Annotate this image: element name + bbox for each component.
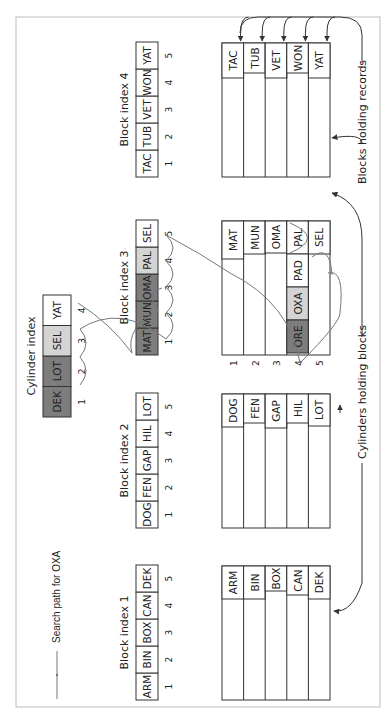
legend: Search path for OXA	[51, 143, 62, 699]
index-number: 3	[164, 458, 174, 464]
record-block: ARM	[222, 566, 244, 599]
record-key: OMA	[270, 224, 282, 249]
index-key: HIL	[141, 425, 153, 442]
index-key: TAC	[141, 154, 153, 175]
cylinder-index-key: SEL	[51, 331, 63, 350]
record-block: PALPADOXAORE	[287, 221, 309, 355]
record-key: CAN	[292, 569, 304, 591]
record-key: OXA	[292, 292, 304, 315]
record-key: DOG	[227, 398, 239, 423]
record-key: DEK	[313, 571, 325, 594]
index-number: 3	[164, 630, 174, 636]
index-key: CAN	[141, 594, 153, 616]
block-indexes: Block index 1ARM1BIN2BOX3CAN4DEK5Block i…	[118, 42, 174, 700]
cylinder-4: TACTUBVETWONYAT	[222, 43, 330, 177]
block-index-1: Block index 1ARM1BIN2BOX3CAN4DEK5	[118, 565, 174, 700]
cylinder-index-key: YAT	[51, 300, 63, 320]
record-key: GAP	[270, 400, 282, 422]
index-number: 1	[164, 161, 174, 167]
cylinder-2: DOGFENGAPHILLOT	[222, 394, 330, 528]
index-key: WON	[141, 69, 153, 96]
index-number: 5	[164, 53, 174, 59]
record-key: LOT	[313, 399, 325, 420]
index-number: 4	[164, 602, 174, 608]
record-key: YAT	[313, 51, 325, 71]
cylinder-index-number: 1	[77, 399, 87, 405]
record-key: ARM	[227, 571, 239, 595]
cylinders: ARMBINBOXCANDEKDOGFENGAPHILLOTMATMUNOMAP…	[222, 17, 335, 700]
index-number: 4	[164, 79, 174, 85]
index-number: 5	[164, 576, 174, 582]
index-key: LOT	[141, 396, 153, 417]
legend-marker-icon	[56, 674, 58, 676]
index-number: 2	[164, 134, 174, 140]
block-index-title: Block index 1	[118, 596, 131, 670]
record-block: MAT	[222, 221, 244, 259]
record-key: ORE	[292, 325, 304, 347]
record-block-arrows	[241, 17, 335, 41]
cylinder-index-title: Cylinder index	[25, 316, 38, 396]
index-key: PAL	[141, 251, 153, 270]
index-number: 3	[164, 107, 174, 113]
record-key: HIL	[292, 400, 304, 417]
record-key: BOX	[270, 568, 282, 590]
block-number: 2	[251, 360, 261, 366]
cylinder-index: Cylinder indexDEK1LOT2SEL3YAT4	[25, 295, 87, 417]
index-number: 5	[164, 404, 174, 410]
block-index-2: Block index 2DOG1FEN2GAP3HIL4LOT5	[118, 393, 174, 528]
index-key: YAT	[141, 46, 153, 66]
record-block: DOG	[222, 394, 244, 427]
index-key: VET	[141, 99, 153, 120]
legend-label: Search path for OXA	[51, 550, 62, 643]
cylinder-index-key: DEK	[51, 390, 63, 413]
record-key: SEL	[313, 228, 325, 247]
blocks-holding-records-label: Blocks holding records	[356, 60, 369, 184]
index-number: 4	[164, 430, 174, 436]
block-index-title: Block index 3	[118, 251, 131, 325]
index-key: TUB	[141, 126, 153, 148]
index-number: 2	[164, 485, 174, 491]
block-index-3: Block index 3MAT1MUN2OMA3PAL4SEL5	[118, 220, 174, 355]
record-block: TAC	[222, 43, 244, 78]
record-key: VET	[270, 50, 282, 71]
block-number: 3	[272, 360, 282, 366]
cylinder-1: ARMBINBOXCANDEK	[222, 566, 330, 700]
index-key: DEK	[141, 567, 153, 590]
index-key: ARM	[141, 675, 153, 699]
cylinder-index-key: LOT	[51, 361, 63, 382]
index-number: 1	[164, 512, 174, 518]
record-key: TUB	[249, 47, 261, 69]
record-key: WON	[292, 45, 304, 72]
index-number: 2	[164, 657, 174, 663]
record-key: PAD	[292, 260, 304, 281]
record-key: BIN	[249, 573, 261, 591]
index-number: 5	[164, 231, 174, 237]
block-index-4: Block index 4TAC1TUB2VET3WON4YAT5	[118, 42, 174, 177]
index-key: OMA	[141, 274, 153, 299]
record-key: PAL	[292, 228, 304, 247]
block-index-title: Block index 2	[118, 424, 131, 498]
index-key: MAT	[141, 330, 153, 352]
block-number: 5	[315, 360, 325, 366]
block-index-title: Block index 4	[118, 73, 131, 147]
index-number: 1	[164, 684, 174, 690]
record-key: TAC	[227, 51, 239, 72]
record-key: FEN	[249, 398, 261, 419]
index-key: BIN	[141, 650, 153, 668]
index-number: 1	[164, 339, 174, 345]
record-key: MAT	[227, 228, 239, 250]
index-key: DOG	[141, 502, 153, 527]
index-key: FEN	[141, 477, 153, 498]
diagram-stage: Search path for OXA Block index 1ARM1BIN…	[0, 0, 388, 723]
index-key: SEL	[141, 224, 153, 243]
cylinders-holding-blocks-annotation: Cylinders holding blocks	[332, 193, 369, 611]
cylinder-3: MATMUNOMAPALPADOXAORESEL12345	[222, 221, 330, 366]
index-key: GAP	[141, 450, 153, 472]
block-number: 1	[229, 360, 239, 366]
index-key: BOX	[141, 622, 153, 644]
cylinders-holding-blocks-label: Cylinders holding blocks	[356, 325, 369, 459]
record-key: MUN	[249, 225, 261, 250]
indexed-sequential-file-diagram: Search path for OXA Block index 1ARM1BIN…	[0, 0, 388, 723]
